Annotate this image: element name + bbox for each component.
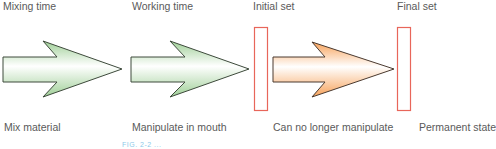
label-permanent-state: Permanent state bbox=[419, 121, 496, 133]
final-set-marker bbox=[398, 28, 411, 111]
label-can-no-longer-manipulate: Can no longer manipulate bbox=[273, 121, 393, 133]
mixing-arrow-icon bbox=[3, 41, 122, 97]
label-manipulate-in-mouth: Manipulate in mouth bbox=[132, 121, 227, 133]
figure-caption: FIG. 2-2 ... bbox=[122, 141, 161, 148]
initial-set-marker bbox=[255, 28, 268, 111]
working-arrow-icon bbox=[131, 41, 249, 97]
label-mix-material: Mix material bbox=[4, 121, 61, 133]
setting-arrow-icon bbox=[273, 42, 394, 97]
